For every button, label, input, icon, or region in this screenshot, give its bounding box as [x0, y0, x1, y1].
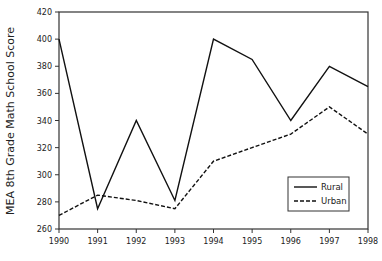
- y-tick-label: 320: [37, 144, 52, 153]
- y-tick-label: 260: [37, 225, 52, 234]
- legend-label-rural: Rural: [321, 182, 343, 192]
- x-tick-label: 1991: [87, 237, 107, 246]
- x-axis: 199019911992199319941995199619971998: [49, 229, 378, 246]
- x-tick-label: 1990: [49, 237, 69, 246]
- x-tick-label: 1998: [358, 237, 378, 246]
- y-axis-title: MEA 8th Grade Math School Score: [4, 27, 17, 215]
- x-tick-label: 1994: [203, 237, 223, 246]
- x-tick-label: 1996: [281, 237, 301, 246]
- legend-label-urban: Urban: [321, 196, 347, 206]
- y-tick-label: 280: [37, 198, 52, 207]
- y-tick-label: 300: [37, 171, 52, 180]
- y-tick-label: 400: [37, 35, 52, 44]
- y-tick-label: 380: [37, 62, 52, 71]
- y-tick-label: 420: [37, 8, 52, 17]
- x-tick-label: 1993: [165, 237, 185, 246]
- line-chart: 260280300320340360380400420 199019911992…: [0, 0, 382, 261]
- y-tick-label: 340: [37, 117, 52, 126]
- x-tick-label: 1995: [242, 237, 262, 246]
- y-tick-label: 360: [37, 89, 52, 98]
- x-tick-label: 1997: [319, 237, 339, 246]
- y-axis: 260280300320340360380400420: [37, 8, 59, 234]
- x-tick-label: 1992: [126, 237, 146, 246]
- legend: RuralUrban: [288, 177, 349, 211]
